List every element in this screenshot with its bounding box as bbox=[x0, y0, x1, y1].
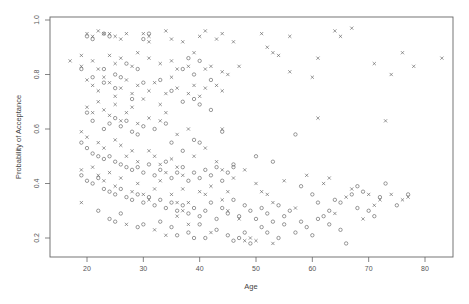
circle-marker bbox=[316, 217, 319, 220]
circle-marker bbox=[361, 190, 364, 193]
cross-marker bbox=[215, 84, 218, 87]
cross-marker bbox=[136, 160, 139, 163]
cross-marker bbox=[159, 163, 162, 166]
cross-marker bbox=[440, 57, 443, 60]
circle-marker bbox=[277, 204, 280, 207]
cross-marker bbox=[412, 65, 415, 68]
circle-marker bbox=[198, 103, 201, 106]
circle-marker bbox=[282, 215, 285, 218]
cross-marker bbox=[390, 193, 393, 196]
cross-marker bbox=[204, 193, 207, 196]
circle-marker bbox=[226, 234, 229, 237]
cross-marker bbox=[333, 212, 336, 215]
scatter-chart: 0.20.40.60.81.0 20304050607080 Age Proba… bbox=[0, 0, 469, 304]
circle-marker bbox=[221, 179, 224, 182]
cross-marker bbox=[181, 187, 184, 190]
cross-marker bbox=[221, 168, 224, 171]
circle-marker bbox=[119, 125, 122, 128]
circle-marker bbox=[159, 198, 162, 201]
cross-marker bbox=[277, 54, 280, 57]
circle-marker bbox=[305, 225, 308, 228]
circle-marker bbox=[142, 171, 145, 174]
data-points bbox=[69, 27, 444, 246]
cross-marker bbox=[130, 190, 133, 193]
cross-marker bbox=[249, 236, 252, 239]
circle-marker bbox=[209, 201, 212, 204]
circle-marker bbox=[215, 165, 218, 168]
cross-marker bbox=[102, 146, 105, 149]
circle-marker bbox=[192, 138, 195, 141]
circle-marker bbox=[119, 212, 122, 215]
circle-marker bbox=[204, 236, 207, 239]
circle-marker bbox=[159, 78, 162, 81]
cross-marker bbox=[271, 242, 274, 245]
circle-marker bbox=[153, 174, 156, 177]
cross-marker bbox=[119, 37, 122, 40]
x-tick-label: 20 bbox=[83, 265, 91, 272]
circle-marker bbox=[187, 179, 190, 182]
circle-marker bbox=[136, 133, 139, 136]
cross-marker bbox=[85, 78, 88, 81]
y-tick-label: 0.4 bbox=[33, 179, 40, 189]
circle-marker bbox=[367, 209, 370, 212]
cross-marker bbox=[294, 206, 297, 209]
cross-marker bbox=[147, 117, 150, 120]
cross-marker bbox=[125, 223, 128, 226]
cross-marker bbox=[102, 108, 105, 111]
cross-marker bbox=[125, 32, 128, 35]
circle-marker bbox=[198, 141, 201, 144]
cross-marker bbox=[80, 168, 83, 171]
cross-marker bbox=[271, 51, 274, 54]
circle-marker bbox=[232, 198, 235, 201]
cross-marker bbox=[305, 174, 308, 177]
circle-marker bbox=[125, 165, 128, 168]
circle-marker bbox=[136, 67, 139, 70]
cross-marker bbox=[130, 92, 133, 95]
circle-marker bbox=[204, 209, 207, 212]
circle-marker bbox=[221, 206, 224, 209]
cross-marker bbox=[97, 141, 100, 144]
circle-marker bbox=[170, 201, 173, 204]
cross-marker bbox=[147, 57, 150, 60]
cross-marker bbox=[80, 201, 83, 204]
circle-marker bbox=[85, 179, 88, 182]
cross-marker bbox=[209, 65, 212, 68]
cross-marker bbox=[119, 176, 122, 179]
circle-marker bbox=[192, 171, 195, 174]
circle-marker bbox=[170, 176, 173, 179]
cross-marker bbox=[198, 35, 201, 38]
circle-marker bbox=[384, 182, 387, 185]
cross-marker bbox=[85, 106, 88, 109]
cross-marker bbox=[164, 171, 167, 174]
circle-marker bbox=[130, 198, 133, 201]
y-axis: 0.20.40.60.81.0 bbox=[33, 15, 50, 243]
circle-marker bbox=[91, 119, 94, 122]
circle-marker bbox=[260, 206, 263, 209]
cross-marker bbox=[350, 187, 353, 190]
circle-marker bbox=[80, 67, 83, 70]
circle-marker bbox=[254, 155, 257, 158]
circle-marker bbox=[215, 217, 218, 220]
cross-marker bbox=[192, 51, 195, 54]
circle-marker bbox=[147, 163, 150, 166]
circle-marker bbox=[113, 220, 116, 223]
circle-marker bbox=[85, 146, 88, 149]
cross-marker bbox=[142, 32, 145, 35]
x-axis: 20304050607080 bbox=[83, 257, 429, 272]
cross-marker bbox=[187, 127, 190, 130]
cross-marker bbox=[221, 198, 224, 201]
cross-marker bbox=[136, 122, 139, 125]
circle-marker bbox=[125, 62, 128, 65]
circle-marker bbox=[164, 206, 167, 209]
circle-marker bbox=[299, 185, 302, 188]
cross-marker bbox=[204, 29, 207, 32]
cross-marker bbox=[176, 67, 179, 70]
circle-marker bbox=[243, 204, 246, 207]
cross-marker bbox=[204, 146, 207, 149]
cross-marker bbox=[108, 171, 111, 174]
cross-marker bbox=[232, 40, 235, 43]
cross-marker bbox=[176, 133, 179, 136]
y-tick-label: 0.2 bbox=[33, 233, 40, 243]
circle-marker bbox=[142, 201, 145, 204]
cross-marker bbox=[125, 111, 128, 114]
